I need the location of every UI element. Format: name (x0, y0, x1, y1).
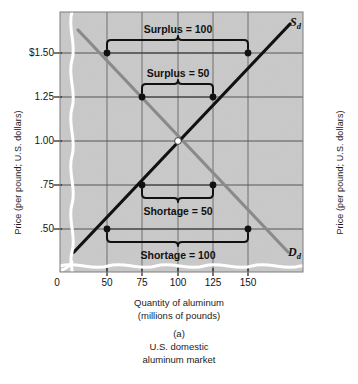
marker-demand-q75-p125 (139, 94, 146, 101)
figure-caption-line2: aluminum market (0, 353, 358, 366)
x-axis-title-line2: (millions of pounds) (0, 309, 358, 322)
marker-supply-q50-p050 (104, 226, 111, 233)
marker-supply-q75-p075 (139, 182, 146, 189)
figure-container: Price (per pound; U.S. dollars) Price (p… (0, 0, 358, 384)
x-axis-tick-labels: 0 50 75 100 125 150 (0, 278, 358, 294)
x-tick-label-150: 150 (240, 278, 257, 288)
x-tick-label-0: 0 (54, 278, 60, 288)
annotation-shortage-50: Shortage = 50 (143, 205, 212, 217)
marker-supply-q125-p125 (210, 94, 217, 101)
figure-caption-line1: U.S. domestic (0, 340, 358, 353)
annotation-surplus-100: Surplus = 100 (144, 23, 213, 35)
annotation-shortage-100: Shortage = 100 (141, 249, 216, 261)
annotation-surplus-50: Surplus = 50 (147, 67, 210, 79)
panel-letter: (a) (0, 327, 358, 340)
x-tick-label-75: 75 (136, 278, 147, 288)
demand-label-main: D (287, 245, 297, 259)
marker-equilibrium-q100-p100 (175, 138, 182, 145)
x-axis-title-line1: Quantity of aluminum (0, 296, 358, 309)
marker-demand-q50-p150 (104, 50, 111, 57)
marker-demand-q150-p050 (245, 226, 252, 233)
figure-caption-block: Quantity of aluminum (millions of pounds… (0, 296, 358, 366)
x-tick-label-50: 50 (101, 278, 112, 288)
marker-supply-q150-p150 (245, 50, 252, 57)
marker-demand-q125-p075 (210, 182, 217, 189)
x-tick-label-100: 100 (170, 278, 187, 288)
x-tick-label-125: 125 (205, 278, 222, 288)
